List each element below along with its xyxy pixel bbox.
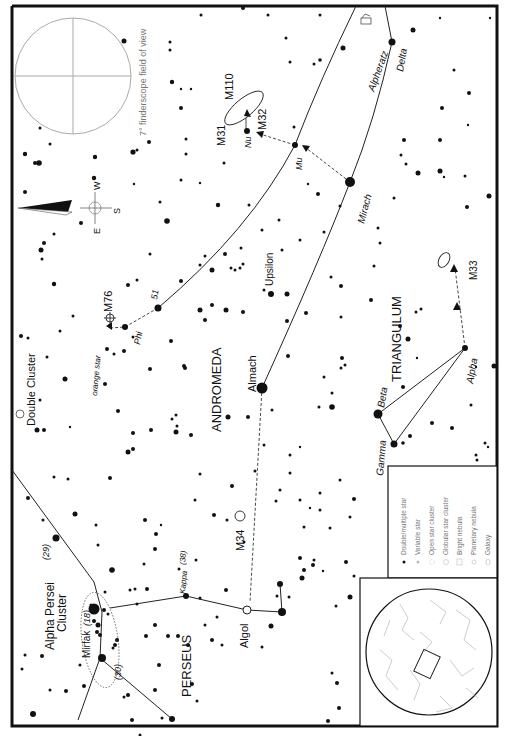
algol-variable — [243, 606, 251, 614]
label-29: (29) — [41, 544, 51, 560]
label-gamma: Gamma — [374, 439, 388, 476]
double-cluster-symbol — [16, 410, 24, 418]
finderscope-caption: 7° finderscope field of view — [138, 28, 148, 136]
legend-item-globular: Globular star cluster — [442, 496, 449, 555]
label-alpha-persei-2: Cluster — [55, 594, 69, 632]
legend-item-double: Double/multiple star — [400, 497, 408, 555]
label-m76: M76 — [102, 291, 114, 312]
legend-item-open-cluster: Open star cluster — [428, 505, 436, 555]
label-mu: Mu — [294, 157, 304, 170]
label-kappa: Kappa — [178, 570, 189, 594]
legend-item-planetary: Planetary nebula — [470, 506, 478, 555]
label-m34: M34 — [234, 530, 246, 551]
pegasus-marker-icon — [361, 14, 371, 24]
compass: W S E — [18, 181, 122, 234]
compass-south: S — [112, 208, 122, 214]
legend-item-galaxy: Galaxy — [484, 534, 492, 555]
label-orange-star: orange star — [90, 355, 103, 396]
label-nu: Nu — [243, 136, 253, 148]
label-30: (30) — [113, 664, 123, 680]
label-upsilon: Upsilon — [264, 253, 275, 286]
label-beta: Beta — [375, 386, 389, 409]
finderscope-field-of-view: 7° finderscope field of view — [15, 18, 148, 136]
label-m31: M31 — [215, 125, 227, 146]
label-mirfak: Mirfak — [81, 630, 92, 658]
label-phi: Phi — [132, 330, 144, 346]
label-kappa-num: (38) — [178, 550, 188, 565]
label-algol: Algol — [238, 624, 250, 648]
label-alpha: Alpha — [464, 357, 480, 386]
label-almach: Almach — [246, 355, 258, 392]
label-m32: M32 — [256, 109, 268, 130]
planetary-nebula-m76 — [104, 312, 116, 324]
locator-sky-map — [360, 578, 497, 726]
legend-item-variable: Variable star — [414, 518, 421, 555]
compass-west: W — [92, 181, 102, 190]
label-perseus: PERSEUS — [179, 635, 194, 697]
label-alpheratz: Alpheratz — [365, 49, 390, 93]
open-cluster-m34 — [235, 511, 245, 521]
label-delta: Delta — [394, 47, 409, 72]
label-triangulum: TRIANGULUM — [389, 296, 404, 382]
label-mirach: Mirach — [355, 192, 374, 224]
galaxy-m33 — [436, 251, 453, 270]
label-mirfak-num: (18) — [82, 610, 92, 626]
compass-east: E — [92, 228, 102, 234]
legend-item-bright-nebula: Bright nebula — [456, 516, 464, 555]
label-m110: M110 — [223, 73, 235, 100]
label-double-cluster: Double Cluster — [25, 353, 37, 426]
label-m33: M33 — [468, 260, 479, 280]
star-chart: 7° finderscope field of view W S E — [0, 0, 508, 736]
legend: Double/multiple star Variable star Open … — [388, 466, 497, 578]
label-andromeda: ANDROMEDA — [209, 347, 224, 432]
label-51: 51 — [149, 289, 161, 301]
